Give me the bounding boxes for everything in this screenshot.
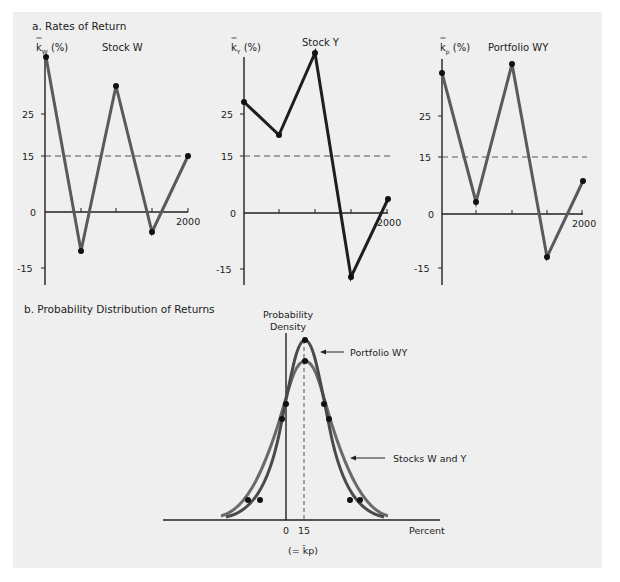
ylabel-stock-w: kW (%)	[36, 42, 68, 55]
title-stock-w: Stock W	[102, 42, 143, 53]
xtick-15: 15	[298, 525, 310, 536]
ytick-15: 15	[221, 151, 233, 162]
ylabel-portfolio-wy: kp (%)	[440, 42, 470, 56]
ytick-0: 0	[30, 207, 36, 218]
figure-svg: a. Rates of Return kW (%) Stock W 25 15 …	[0, 0, 620, 582]
ylabel-stock-y: kY (%)	[231, 42, 261, 55]
series-line-stock-y	[244, 53, 388, 277]
xtick-0: 0	[283, 525, 289, 536]
title-stock-y: Stock Y	[302, 37, 340, 48]
expected-return-note: (= k̂p)	[288, 545, 318, 556]
xtick-2000: 2000	[572, 218, 596, 229]
xtick-2000: 2000	[377, 217, 401, 228]
ytick-0: 0	[230, 208, 236, 219]
ytick-25: 25	[22, 109, 34, 120]
chart-stock-w: kW (%) Stock W 25 15 0 -15 2000	[17, 38, 200, 285]
ytick-25: 25	[419, 111, 431, 122]
xlabel-percent: Percent	[409, 525, 445, 536]
ylabel-line2: Density	[270, 321, 306, 332]
chart-portfolio-wy: kp (%) Portfolio WY 25 15 0 -15 2000	[414, 38, 596, 285]
ytick-0: 0	[428, 209, 434, 220]
label-portfolio-wy: Portfolio WY	[350, 347, 407, 358]
ytick-25: 25	[221, 109, 233, 120]
ytick-15: 15	[22, 151, 34, 162]
ytick-neg15: -15	[216, 264, 232, 275]
xtick-2000: 2000	[176, 216, 200, 227]
ytick-neg15: -15	[17, 263, 33, 274]
ylabel-line1: Probability	[263, 309, 314, 320]
chart-stock-y: kY (%) Stock Y 25 15 0 -15 2000	[216, 37, 401, 285]
chart-probability-distribution: Probability Density Portfolio WY Stocks …	[163, 309, 467, 556]
label-stocks-w-and-y: Stocks W and Y	[393, 453, 467, 464]
ytick-15: 15	[419, 152, 431, 163]
section-b-title: b. Probability Distribution of Returns	[24, 303, 215, 315]
title-portfolio-wy: Portfolio WY	[488, 42, 549, 53]
section-a-title: a. Rates of Return	[32, 20, 126, 32]
series-line-portfolio-wy	[442, 64, 583, 257]
ytick-neg15: -15	[414, 263, 430, 274]
